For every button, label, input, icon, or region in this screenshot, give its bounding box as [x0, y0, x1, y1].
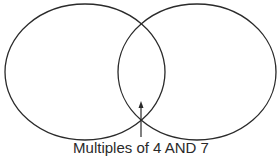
venn-diagram — [0, 0, 277, 156]
intersection-label: Multiples of 4 AND 7 — [0, 139, 277, 156]
